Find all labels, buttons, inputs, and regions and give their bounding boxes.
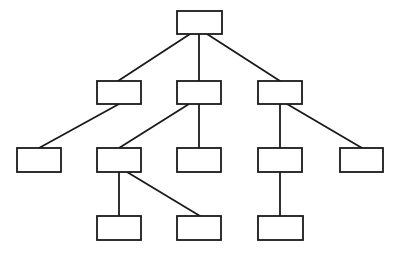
tree-node-l1c [258, 81, 302, 104]
tree-diagram [0, 0, 397, 256]
node-box [258, 216, 303, 240]
edge-root-to-l1a [118, 34, 190, 81]
node-box [177, 81, 221, 104]
node-layer [17, 11, 383, 240]
tree-node-l2c [177, 148, 221, 172]
tree-node-l3c [258, 216, 303, 240]
node-box [177, 11, 222, 34]
edge-root-to-l1c [207, 34, 280, 81]
edge-l1c-to-l2e [287, 104, 362, 148]
node-box [258, 148, 302, 172]
tree-node-root [177, 11, 222, 34]
node-box [340, 148, 383, 172]
node-box [97, 148, 141, 172]
tree-node-l2a [17, 148, 61, 172]
tree-node-l2b [97, 148, 141, 172]
tree-node-l1a [97, 81, 141, 104]
node-box [177, 148, 221, 172]
edge-l1a-to-l2a [39, 104, 119, 148]
edge-layer [39, 34, 362, 216]
edge-l2b-to-l3b [127, 172, 200, 216]
node-box [97, 216, 141, 240]
edge-l1b-to-l2b [119, 104, 189, 148]
node-box [177, 216, 221, 240]
tree-node-l3a [97, 216, 141, 240]
node-box [97, 81, 141, 104]
tree-node-l3b [177, 216, 221, 240]
tree-node-l2e [340, 148, 383, 172]
node-box [258, 81, 302, 104]
node-box [17, 148, 61, 172]
tree-node-l1b [177, 81, 221, 104]
tree-node-l2d [258, 148, 302, 172]
